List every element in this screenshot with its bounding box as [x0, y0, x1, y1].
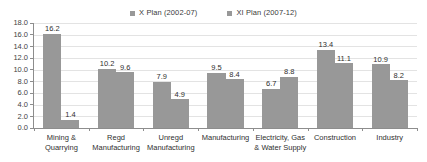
category-labels: Mining &QuarryingRegdManufacturingUnregd… [34, 133, 417, 152]
y-axis-tick-label: 8.0 [18, 77, 30, 85]
bar-value-label: 10.9 [372, 56, 390, 64]
bar[interactable] [61, 120, 79, 128]
bar-group-inner: 7.94.9 [153, 23, 189, 128]
bar-group: 9.58.4 [198, 23, 253, 128]
bar-slot: 4.9 [171, 23, 189, 128]
category-label-line: Industry [363, 133, 416, 143]
y-axis-tick-label: 10.0 [13, 65, 30, 73]
y-axis-tick-label: 0.0 [18, 124, 30, 132]
bar[interactable] [226, 79, 244, 128]
bar-slot: 8.2 [390, 23, 408, 128]
y-axis-tick-mark [30, 116, 33, 117]
y-axis-tick-mark [30, 46, 33, 47]
bar-slot: 13.4 [317, 23, 335, 128]
bar-group-inner: 16.21.4 [43, 23, 79, 128]
bar-slot: 9.6 [116, 23, 134, 128]
bar-value-label: 8.8 [280, 68, 298, 76]
bar-group-inner: 13.411.1 [317, 23, 353, 128]
category-label-line: Unregd [144, 133, 197, 143]
legend-swatch-icon [130, 11, 135, 16]
bar-value-label: 6.7 [262, 80, 280, 88]
bar[interactable] [171, 99, 189, 128]
category-tick-mark [308, 128, 309, 131]
legend-swatch-icon [227, 11, 232, 16]
y-axis-tick-mark [30, 23, 33, 24]
bar-group: 10.98.2 [362, 23, 417, 128]
bar[interactable] [280, 77, 298, 128]
bar[interactable] [335, 63, 353, 128]
bar[interactable] [116, 72, 134, 128]
bar[interactable] [98, 69, 116, 129]
category-label-line: Construction [309, 133, 362, 143]
category-tick-mark [34, 128, 35, 131]
bar-value-label: 1.4 [61, 111, 79, 119]
legend-item[interactable]: X Plan (2002-07) [130, 9, 197, 17]
bar-slot: 1.4 [61, 23, 79, 128]
bar-group-inner: 9.58.4 [207, 23, 243, 128]
y-axis-tick-mark [30, 93, 33, 94]
bar[interactable] [207, 73, 225, 128]
bar-value-label: 9.5 [207, 64, 225, 72]
bar-slot: 8.4 [226, 23, 244, 128]
bar-group: 13.411.1 [308, 23, 363, 128]
y-axis: 18.016.014.012.010.08.06.04.02.00.0 [0, 23, 33, 128]
bar[interactable] [153, 82, 171, 128]
bar-value-label: 11.1 [335, 55, 353, 63]
y-axis-tick-label: 6.0 [18, 89, 30, 97]
bar[interactable] [317, 50, 335, 128]
category-label-line: Regd [90, 133, 143, 143]
bar-group-inner: 10.98.2 [372, 23, 408, 128]
category-label-line: Mining & [35, 133, 88, 143]
legend-item[interactable]: XI Plan (2007-12) [227, 9, 296, 17]
bar-value-label: 13.4 [317, 41, 335, 49]
y-axis-tick-label: 18.0 [13, 19, 30, 27]
bar[interactable] [372, 64, 390, 128]
category-label: UnregdManufacturing [143, 133, 198, 152]
y-axis-tick-mark [30, 81, 33, 82]
y-axis-tick-mark [30, 128, 33, 129]
bar-value-label: 8.4 [226, 71, 244, 79]
legend-item-label: XI Plan (2007-12) [236, 9, 296, 17]
category-tick-mark [89, 128, 90, 131]
category-label: RegdManufacturing [89, 133, 144, 152]
y-axis-tick-label: 2.0 [18, 112, 30, 120]
bar-slot: 6.7 [262, 23, 280, 128]
category-tick-mark [143, 128, 144, 131]
bar-value-label: 4.9 [171, 91, 189, 99]
bar-group-inner: 6.78.8 [262, 23, 298, 128]
y-axis-tick-label: 4.0 [18, 100, 30, 108]
category-tick-mark [253, 128, 254, 131]
bar-slot: 7.9 [153, 23, 171, 128]
bar-slot: 11.1 [335, 23, 353, 128]
y-axis-tick-label: 14.0 [13, 42, 30, 50]
bar[interactable] [390, 80, 408, 128]
chart-legend: X Plan (2002-07)XI Plan (2007-12) [0, 7, 427, 19]
category-tick-mark [198, 128, 199, 131]
bar-slot: 10.2 [98, 23, 116, 128]
bar-value-label: 7.9 [153, 73, 171, 81]
category-label: Mining &Quarrying [34, 133, 89, 152]
category-label-line: Manufacturing [144, 143, 197, 153]
bar[interactable] [262, 89, 280, 128]
y-axis-tick-mark [30, 104, 33, 105]
y-axis-tick-mark [30, 69, 33, 70]
y-axis-tick-mark [30, 34, 33, 35]
category-label: Manufacturing [198, 133, 253, 152]
bar-value-label: 8.2 [390, 72, 408, 80]
category-label-line: Manufacturing [199, 133, 252, 143]
bar-group: 10.29.6 [89, 23, 144, 128]
bar-chart: X Plan (2002-07)XI Plan (2007-12) 18.016… [0, 0, 427, 162]
bar-value-label: 16.2 [43, 25, 61, 33]
bar-value-label: 10.2 [98, 60, 116, 68]
bar-slot: 10.9 [372, 23, 390, 128]
bar[interactable] [43, 34, 61, 129]
category-tick-mark [362, 128, 363, 131]
category-label: Electricity, Gas& Water Supply [253, 133, 308, 152]
category-label-line: Manufacturing [90, 143, 143, 153]
bar-group: 16.21.4 [34, 23, 89, 128]
bar-slot: 16.2 [43, 23, 61, 128]
y-axis-tick-label: 16.0 [13, 30, 30, 38]
bar-value-label: 9.6 [116, 64, 134, 72]
legend-item-label: X Plan (2002-07) [139, 9, 197, 17]
category-tick-mark [417, 128, 418, 131]
